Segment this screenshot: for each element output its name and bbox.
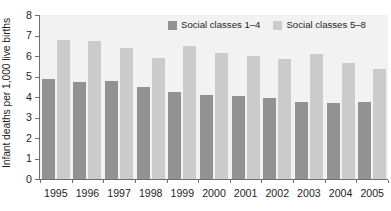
x-tick-mark: [135, 180, 136, 183]
y-axis-title: Infant deaths per 1,000 live births: [0, 2, 14, 184]
bar-group-1997: [105, 15, 133, 179]
x-tick-mark: [40, 180, 41, 183]
bar-2003-series-1: [295, 102, 308, 179]
x-tick-label-2004: 2004: [323, 188, 359, 199]
legend-label-social-classes-5-8: Social classes 5–8: [286, 20, 365, 30]
y-tick-label: 6: [18, 51, 32, 62]
bar-1998-series-1: [137, 87, 150, 179]
x-tick-label-1997: 1997: [101, 188, 137, 199]
y-tick-label: 7: [18, 30, 32, 41]
x-tick-mark: [356, 180, 357, 183]
legend-swatch-icon-dark: [168, 21, 177, 30]
bar-2001-series-2: [247, 56, 260, 179]
x-tick-mark: [261, 180, 262, 183]
bar-1996-series-2: [88, 41, 101, 179]
bar-2002-series-1: [263, 98, 276, 179]
x-tick-label-2001: 2001: [228, 188, 264, 199]
bar-1999-series-1: [168, 92, 181, 179]
y-tick-label: 4: [18, 92, 32, 103]
x-tick-mark: [167, 180, 168, 183]
bar-2002-series-2: [278, 59, 291, 179]
bar-group-1996: [73, 15, 101, 179]
x-tick-mark: [325, 180, 326, 183]
bar-2005-series-2: [373, 69, 386, 179]
x-tick-label-2005: 2005: [354, 188, 390, 199]
bar-group-1998: [137, 15, 165, 179]
y-tick-label: 5: [18, 71, 32, 82]
legend-item-social-classes-1-4: Social classes 1–4: [168, 20, 260, 30]
bar-group-2002: [263, 15, 291, 179]
y-tick-label: 3: [18, 112, 32, 123]
bar-2004-series-1: [327, 103, 340, 179]
bar-group-2001: [232, 15, 260, 179]
bar-group-2000: [200, 15, 228, 179]
bar-1997-series-1: [105, 81, 118, 179]
chart-legend: Social classes 1–4 Social classes 5–8: [168, 19, 366, 31]
legend-label-social-classes-1-4: Social classes 1–4: [181, 20, 260, 30]
x-tick-label-2002: 2002: [259, 188, 295, 199]
y-tick-label: 0: [18, 174, 32, 185]
x-tick-label-1995: 1995: [38, 188, 74, 199]
bar-1998-series-2: [152, 58, 165, 179]
x-tick-label-2003: 2003: [291, 188, 327, 199]
plot-area: [40, 15, 388, 179]
infant-mortality-bar-chart: Infant deaths per 1,000 live births 8765…: [0, 0, 391, 211]
bar-group-2004: [327, 15, 355, 179]
x-tick-mark: [103, 180, 104, 183]
y-tick-label: 2: [18, 133, 32, 144]
x-tick-mark: [198, 180, 199, 183]
bar-group-2003: [295, 15, 323, 179]
x-tick-mark: [293, 180, 294, 183]
x-tick-mark: [230, 180, 231, 183]
bar-2000-series-1: [200, 95, 213, 179]
bar-1995-series-2: [57, 40, 70, 179]
bar-2005-series-1: [358, 102, 371, 179]
bar-1996-series-1: [73, 82, 86, 179]
x-tick-label-1999: 1999: [164, 188, 200, 199]
bar-1995-series-1: [42, 79, 55, 179]
bar-1999-series-2: [183, 46, 196, 179]
x-tick-mark: [388, 180, 389, 183]
bar-group-2005: [358, 15, 386, 179]
x-tick-label-2000: 2000: [196, 188, 232, 199]
bar-2000-series-2: [215, 53, 228, 179]
bar-group-1999: [168, 15, 196, 179]
bar-2003-series-2: [310, 54, 323, 179]
bar-group-1995: [42, 15, 70, 179]
x-tick-mark: [72, 180, 73, 183]
x-tick-label-1996: 1996: [69, 188, 105, 199]
bar-1997-series-2: [120, 48, 133, 179]
legend-item-social-classes-5-8: Social classes 5–8: [273, 20, 365, 30]
x-axis-line: [39, 179, 388, 180]
y-tick-label: 1: [18, 153, 32, 164]
bar-2001-series-1: [232, 96, 245, 179]
legend-swatch-icon-light: [273, 21, 282, 30]
bar-2004-series-2: [342, 63, 355, 179]
x-tick-label-1998: 1998: [133, 188, 169, 199]
y-tick-label: 8: [18, 10, 32, 21]
